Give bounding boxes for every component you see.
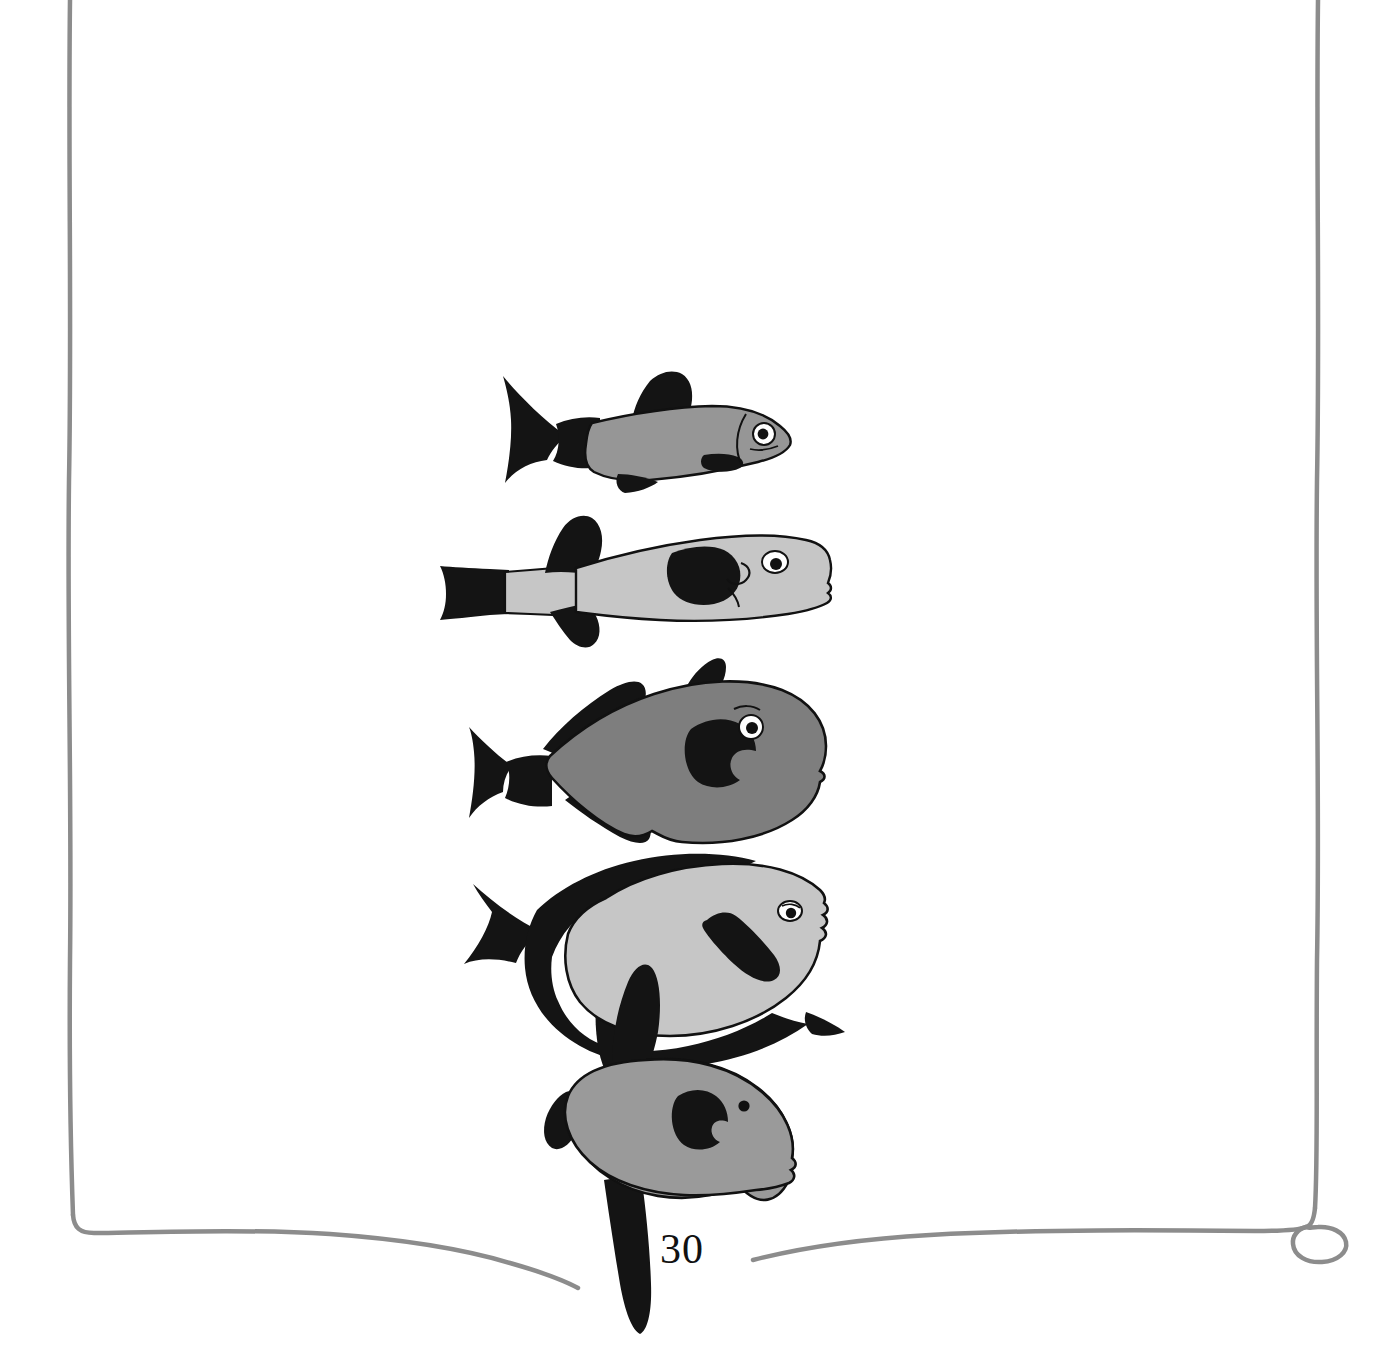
fish-2-eye-pupil: [770, 558, 782, 570]
fish-5-anal-fin: [604, 1179, 651, 1334]
frame-left-line: [69, 0, 73, 1215]
fish-2-elongate-blunt-tail-fish: [440, 516, 831, 648]
fish-1-eye-pupil: [758, 429, 769, 440]
illustration-svg: [0, 0, 1394, 1352]
frame-bottom-left-segment: [73, 1215, 578, 1288]
frame-bottom-right-segment: [753, 1227, 1306, 1260]
fish-2-caudal-fin: [440, 566, 509, 620]
fish-5-eye: [738, 1100, 749, 1111]
page-canvas: 30: [0, 0, 1394, 1352]
page-number: 30: [660, 1225, 704, 1273]
frame-corner-loop-icon: [1293, 1208, 1346, 1262]
fish-1-elongate-streamlined-fish: [503, 372, 791, 493]
fish-3-caudal-peduncle: [505, 755, 552, 806]
frame-right-line: [1315, 0, 1318, 1208]
fish-3-oval-deep-bodied-fish: [469, 658, 826, 843]
fish-3-eye-pupil: [746, 722, 758, 734]
fish-4-eye-pupil: [786, 908, 796, 918]
fish-3-caudal-fin: [469, 727, 512, 818]
fish-1-caudal-fin: [503, 376, 566, 483]
fish-4-posterior-fin: [805, 1012, 845, 1036]
fish-2-flank-blotch: [667, 546, 740, 605]
